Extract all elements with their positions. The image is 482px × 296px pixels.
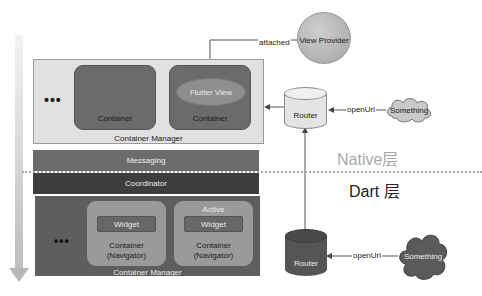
dart-container-2-label-line1: Container bbox=[174, 240, 253, 250]
dart-ellipsis: ••• bbox=[54, 234, 70, 248]
dart-widget-1: Widget bbox=[97, 216, 156, 232]
dart-something-label: Something bbox=[396, 250, 450, 262]
flutter-view: Flutter View bbox=[176, 78, 246, 106]
dart-open-url-label: openUrl bbox=[352, 251, 382, 260]
dart-container-manager-label: Container Manager bbox=[35, 267, 260, 277]
view-provider-label: View Provider bbox=[290, 34, 358, 46]
dart-container-2-label-line2: (Navigator) bbox=[174, 250, 253, 260]
dart-router-label: Router bbox=[285, 257, 327, 269]
native-container-2-label: Container bbox=[169, 112, 251, 124]
active-badge: Active bbox=[174, 204, 253, 214]
dart-layer-label: Dart 层 bbox=[349, 178, 400, 202]
native-router-top bbox=[284, 87, 327, 100]
native-router-label: Router bbox=[284, 109, 327, 121]
native-container-manager-label: Container Manager bbox=[33, 132, 264, 144]
dart-widget-2: Widget bbox=[184, 216, 243, 232]
native-something-label: Something bbox=[384, 104, 434, 116]
coordinator-band: Coordinator bbox=[33, 173, 259, 194]
dart-router-top bbox=[285, 229, 327, 243]
messaging-band: Messaging bbox=[33, 150, 259, 171]
attached-label: attached bbox=[258, 38, 291, 47]
native-ellipsis: ••• bbox=[44, 92, 62, 108]
dart-container-1-label-line2: (Navigator) bbox=[87, 250, 166, 260]
native-layer-label: Native层 bbox=[337, 146, 398, 170]
dart-container-1-label-line1: Container bbox=[87, 240, 166, 250]
native-container-1-label: Container bbox=[74, 112, 156, 124]
native-open-url-label: openUrl bbox=[346, 105, 376, 114]
